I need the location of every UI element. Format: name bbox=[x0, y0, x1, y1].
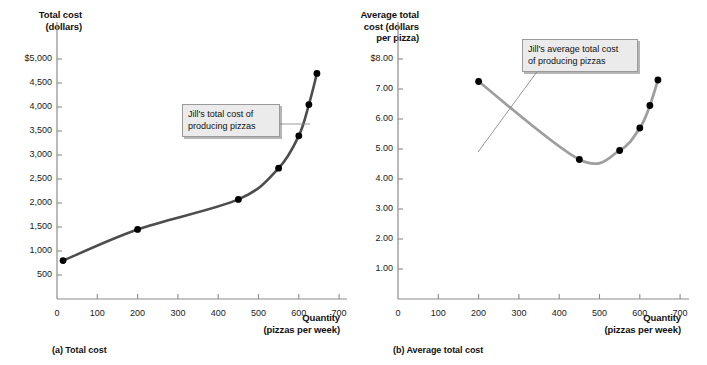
x-tick-label: 600 bbox=[624, 308, 656, 318]
x-tick-label: 200 bbox=[463, 308, 495, 318]
data-point bbox=[646, 102, 653, 109]
data-point bbox=[616, 147, 623, 154]
x-tick-label: 700 bbox=[664, 308, 696, 318]
y-tick-label: 3.00 bbox=[345, 203, 393, 213]
data-point bbox=[475, 78, 482, 85]
x-tick-label: 300 bbox=[503, 308, 535, 318]
y-tick-label: 6.00 bbox=[345, 113, 393, 123]
callout-leader-line bbox=[478, 69, 539, 152]
x-tick-label: 200 bbox=[122, 308, 154, 318]
panel-caption: (b) Average total cost bbox=[393, 345, 483, 355]
panel-caption: (a) Total cost bbox=[52, 345, 107, 355]
data-point bbox=[314, 70, 321, 77]
y-tick-label: 7.00 bbox=[345, 83, 393, 93]
x-tick-label: 100 bbox=[81, 308, 113, 318]
callout-total-cost: Jill's total cost of producing pizzas bbox=[182, 104, 280, 137]
y-tick-label: 1,000 bbox=[4, 245, 52, 255]
data-point bbox=[295, 132, 302, 139]
data-point bbox=[235, 196, 242, 203]
y-tick-label: 5.00 bbox=[345, 143, 393, 153]
y-tick-label: $5,000 bbox=[4, 53, 52, 63]
y-tick-label: 1.00 bbox=[345, 263, 393, 273]
y-tick-label: 4,000 bbox=[4, 101, 52, 111]
y-tick-label: 2,500 bbox=[4, 173, 52, 183]
x-tick-label: 600 bbox=[283, 308, 315, 318]
data-point bbox=[576, 156, 583, 163]
x-tick-label: 300 bbox=[162, 308, 194, 318]
y-tick-label: 4.00 bbox=[345, 173, 393, 183]
panel-average-total-cost: Average total cost (dollars per pizza) Q… bbox=[353, 0, 707, 365]
data-point bbox=[655, 77, 662, 84]
y-tick-label: 3,000 bbox=[4, 149, 52, 159]
x-tick-label: 400 bbox=[543, 308, 575, 318]
y-tick-label: 500 bbox=[4, 269, 52, 279]
y-tick-label: 1,500 bbox=[4, 221, 52, 231]
cost-curve bbox=[479, 80, 658, 164]
callout-average-total-cost: Jill's average total cost of producing p… bbox=[522, 39, 638, 72]
x-tick-label: 0 bbox=[41, 308, 73, 318]
y-tick-label: 3,500 bbox=[4, 125, 52, 135]
x-tick-label: 500 bbox=[584, 308, 616, 318]
y-tick-label: $8.00 bbox=[345, 53, 393, 63]
x-tick-label: 400 bbox=[202, 308, 234, 318]
x-tick-label: 0 bbox=[382, 308, 414, 318]
x-tick-label: 500 bbox=[243, 308, 275, 318]
x-tick-label: 700 bbox=[323, 308, 355, 318]
x-tick-label: 100 bbox=[422, 308, 454, 318]
data-point bbox=[134, 226, 141, 233]
y-tick-label: 2,000 bbox=[4, 197, 52, 207]
y-tick-label: 4,500 bbox=[4, 77, 52, 87]
y-tick-label: 2.00 bbox=[345, 233, 393, 243]
data-point bbox=[275, 165, 282, 172]
data-point bbox=[636, 125, 643, 132]
data-point bbox=[305, 101, 312, 108]
data-point bbox=[60, 257, 67, 264]
panel-total-cost: Total cost (dollars) Quantity (pizzas pe… bbox=[0, 0, 354, 365]
